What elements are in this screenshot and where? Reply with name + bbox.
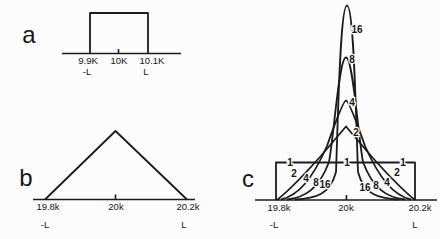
c-tick-center: 20k [338,202,354,213]
c-label-2-left-tail: 2 [291,168,297,179]
c-label-16-left-tail: 16 [319,179,331,190]
c-limit-minus-l: -L [270,219,278,230]
c-label-16-apex: 16 [351,24,363,35]
c-tick-left: 19.8k [267,202,290,213]
c-label-8-right-tail: 8 [373,180,379,191]
figure-canvas: a 9.9K 10K 10.1K -L L b 19.8k 20k 20.2k … [0,0,440,239]
panel-a: a 9.9K 10K 10.1K -L L [22,13,181,77]
c-label-4-right-tail: 4 [384,177,390,188]
a-tick-center: 10K [111,55,129,66]
panel-b: b 19.8k 20k 20.2k -L L [19,131,200,230]
c-label-1-left: 1 [287,157,293,168]
c-label-8-apex: 8 [349,54,355,65]
a-tick-left: 9.9K [78,55,98,66]
c-label-8-left-tail: 8 [313,177,319,188]
c-label-2-right-tail: 2 [394,167,400,178]
c-label-16-right-tail: 16 [359,182,371,193]
b-tick-left: 19.8k [36,201,59,212]
c-label-4-apex: 4 [349,97,355,108]
b-limit-l: L [181,219,186,230]
panel-c: c 16 8 4 2 1 1 1 2 4 8 16 16 8 4 2 19.8k… [242,6,437,231]
figure-svg: a 9.9K 10K 10.1K -L L b 19.8k 20k 20.2k … [0,0,440,239]
b-triangular-pulse-curve [45,131,187,200]
panel-c-letter: c [242,165,254,192]
a-tick-right: 10.1K [140,55,165,66]
c-label-4-left-tail: 4 [303,173,309,184]
c-label-2-apex: 2 [353,127,359,138]
a-limit-minus-l: -L [83,66,91,77]
c-limit-l: L [412,219,417,230]
c-curve-order-4 [281,101,411,200]
a-rectangular-pulse-curve [90,13,148,54]
b-limit-minus-l: -L [41,219,49,230]
c-label-1-right: 1 [400,157,406,168]
a-limit-l: L [143,66,148,77]
panel-a-letter: a [22,21,36,48]
c-label-1-center: 1 [344,157,350,168]
panel-b-letter: b [19,164,32,191]
b-tick-center: 20k [108,201,124,212]
b-tick-right: 20.2k [176,201,199,212]
c-tick-right: 20.2k [408,202,431,213]
